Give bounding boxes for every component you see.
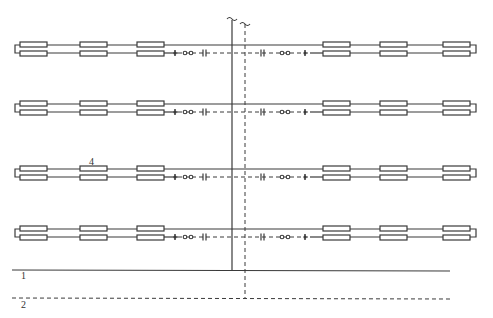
coupling-icon	[189, 51, 193, 55]
insulator-box	[80, 42, 107, 47]
left-bracket	[15, 104, 20, 112]
schematic-diagram	[0, 0, 493, 318]
insulator-box	[443, 51, 470, 56]
ground-icon	[173, 235, 176, 238]
insulator-box	[137, 42, 164, 47]
insulator-box	[137, 175, 164, 180]
insulator-box	[80, 110, 107, 115]
insulator-box	[137, 110, 164, 115]
right-bracket	[470, 45, 476, 53]
right-bracket	[470, 169, 476, 177]
insulator-box	[380, 166, 407, 171]
ground-icon	[173, 175, 176, 178]
insulator-box	[443, 101, 470, 106]
insulator-box	[80, 235, 107, 240]
left-bracket	[15, 45, 20, 53]
coupling-icon	[286, 175, 290, 179]
insulator-box	[80, 51, 107, 56]
ground-icon	[303, 175, 306, 178]
insulator-box	[323, 42, 350, 47]
insulator-box	[443, 235, 470, 240]
insulator-box	[137, 166, 164, 171]
insulator-box	[137, 101, 164, 106]
insulator-box	[20, 175, 47, 180]
insulator-box	[20, 235, 47, 240]
insulator-box	[80, 101, 107, 106]
insulator-box	[443, 110, 470, 115]
coupling-icon	[280, 110, 284, 114]
coupling-icon	[183, 235, 187, 239]
insulator-box	[80, 226, 107, 231]
ground-icon	[173, 51, 176, 54]
insulator-box	[323, 235, 350, 240]
insulator-box	[323, 51, 350, 56]
line-2-dashed	[12, 298, 450, 299]
insulator-box	[323, 175, 350, 180]
label-line-2: 2	[21, 300, 26, 310]
insulator-box	[323, 166, 350, 171]
insulator-box	[380, 110, 407, 115]
insulator-box	[443, 226, 470, 231]
insulator-box	[137, 235, 164, 240]
coupling-icon	[183, 110, 187, 114]
ground-icon	[303, 235, 306, 238]
insulator-box	[137, 226, 164, 231]
insulator-box	[80, 175, 107, 180]
insulator-box	[443, 175, 470, 180]
label-component-4: 4	[89, 157, 94, 167]
ground-icon	[303, 110, 306, 113]
coupling-icon	[189, 235, 193, 239]
ground-icon	[173, 110, 176, 113]
coupling-icon	[189, 175, 193, 179]
coupling-icon	[183, 175, 187, 179]
coupling-icon	[286, 110, 290, 114]
coupling-icon	[189, 110, 193, 114]
coupling-icon	[280, 175, 284, 179]
insulator-box	[20, 51, 47, 56]
insulator-box	[380, 42, 407, 47]
coupling-icon	[286, 51, 290, 55]
insulator-box	[380, 235, 407, 240]
insulator-box	[380, 175, 407, 180]
insulator-box	[20, 226, 47, 231]
left-bracket	[15, 169, 20, 177]
insulator-box	[323, 226, 350, 231]
insulator-box	[380, 51, 407, 56]
ground-icon	[303, 51, 306, 54]
right-bracket	[470, 229, 476, 237]
insulator-box	[380, 101, 407, 106]
left-bracket	[15, 229, 20, 237]
coupling-icon	[183, 51, 187, 55]
right-bracket	[470, 104, 476, 112]
insulator-box	[20, 110, 47, 115]
insulator-box	[20, 101, 47, 106]
insulator-box	[137, 51, 164, 56]
insulator-box	[443, 42, 470, 47]
label-line-1: 1	[21, 271, 26, 281]
coupling-icon	[286, 235, 290, 239]
insulator-box	[323, 110, 350, 115]
insulator-box	[20, 42, 47, 47]
coupling-icon	[280, 51, 284, 55]
insulator-box	[20, 166, 47, 171]
insulator-box	[323, 101, 350, 106]
insulator-box	[380, 226, 407, 231]
insulator-box	[443, 166, 470, 171]
line-1	[12, 270, 450, 271]
coupling-icon	[280, 235, 284, 239]
